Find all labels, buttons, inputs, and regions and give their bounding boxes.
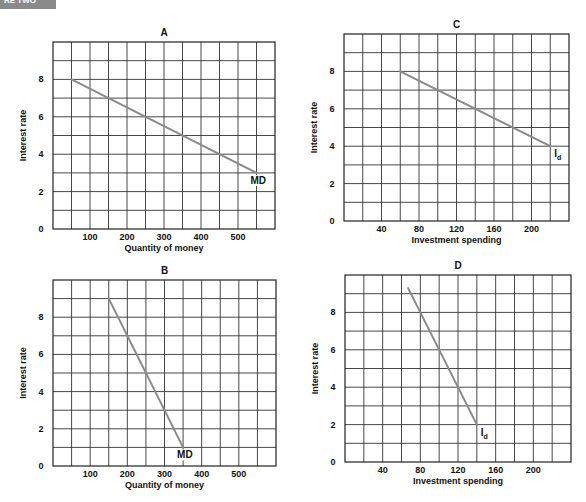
y-tick-label: 8 (329, 66, 334, 76)
y-axis-label: Interest rate (18, 110, 28, 162)
chart-title: A (160, 27, 167, 38)
x-tick-label: 100 (83, 469, 98, 479)
x-tick-label: 200 (524, 224, 539, 234)
gridlines (344, 34, 569, 221)
y-tick-label: 2 (330, 420, 335, 430)
y-tick-label: 2 (38, 424, 43, 434)
x-tick-label: 400 (194, 469, 209, 479)
y-axis-label: Interest rate (310, 343, 320, 395)
y-tick-label: 6 (38, 112, 43, 122)
x-axis-label: Quantity of money (125, 480, 204, 490)
x-tick-label: 80 (415, 465, 425, 475)
y-tick-label: 0 (38, 224, 43, 234)
demand-curve (408, 288, 477, 425)
chart-title: B (161, 265, 168, 276)
y-tick-label: 6 (38, 349, 43, 359)
x-axis-label: Investment spending (411, 235, 501, 245)
x-axis-label: Quantity of money (124, 243, 203, 253)
y-tick-label: 0 (38, 461, 43, 471)
x-tick-label: 400 (193, 232, 208, 242)
x-tick-label: 200 (119, 232, 134, 242)
charts-canvas: A10020030040050002468Quantity of moneyIn… (0, 0, 586, 502)
curve-label: Id (554, 148, 561, 161)
x-tick-label: 100 (82, 232, 97, 242)
gridlines (53, 280, 276, 466)
y-tick-label: 4 (38, 387, 43, 397)
chart-d: D408012016020002468Investment spendingIn… (310, 260, 571, 486)
chart-a: A10020030040050002468Quantity of moneyIn… (18, 27, 275, 253)
y-tick-label: 8 (330, 307, 335, 317)
x-tick-label: 40 (378, 465, 388, 475)
curve-label: MD (177, 449, 193, 460)
curve-label: Id (481, 427, 488, 440)
x-tick-label: 300 (157, 469, 172, 479)
x-tick-label: 160 (486, 224, 501, 234)
x-tick-label: 120 (450, 465, 465, 475)
chart-title: C (453, 19, 460, 30)
x-tick-label: 300 (156, 232, 171, 242)
gridlines (345, 275, 571, 462)
x-tick-label: 160 (488, 465, 503, 475)
curve-label: MD (251, 175, 267, 186)
x-tick-label: 500 (230, 232, 245, 242)
y-tick-label: 4 (330, 382, 335, 392)
chart-title: D (454, 260, 461, 271)
chart-c: C408012016020002468Investment spendingIn… (309, 19, 569, 245)
y-tick-label: 4 (38, 149, 43, 159)
y-tick-label: 8 (38, 74, 43, 84)
y-tick-label: 2 (38, 187, 43, 197)
y-tick-label: 4 (329, 141, 334, 151)
x-tick-label: 500 (231, 469, 246, 479)
x-tick-label: 200 (120, 469, 135, 479)
y-tick-label: 6 (330, 345, 335, 355)
y-tick-label: 6 (329, 104, 334, 114)
y-tick-label: 8 (38, 312, 43, 322)
x-axis-label: Investment spending (413, 476, 503, 486)
y-tick-label: 2 (329, 179, 334, 189)
y-tick-label: 0 (330, 457, 335, 467)
x-tick-label: 200 (526, 465, 541, 475)
gridlines (53, 42, 275, 229)
y-axis-label: Interest rate (309, 102, 319, 154)
x-tick-label: 80 (414, 224, 424, 234)
y-axis-label: Interest rate (18, 347, 28, 399)
chart-b: B10020030040050002468Quantity of moneyIn… (18, 265, 276, 490)
x-tick-label: 120 (449, 224, 464, 234)
y-tick-label: 0 (329, 216, 334, 226)
x-tick-label: 40 (376, 224, 386, 234)
